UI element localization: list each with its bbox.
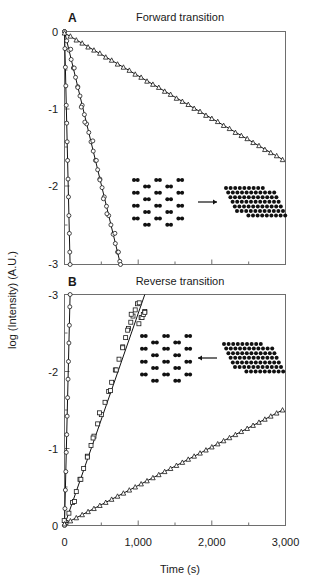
- data-marker-circle: [116, 250, 120, 254]
- cluster-node: [254, 351, 258, 355]
- data-marker-circle: [69, 57, 73, 61]
- data-marker-triangle: [109, 497, 114, 501]
- cluster-node: [265, 365, 269, 369]
- cluster-node: [274, 365, 278, 369]
- lattice-node: [165, 184, 169, 188]
- cluster-node: [240, 351, 244, 355]
- cluster-node: [247, 195, 251, 199]
- data-marker-circle: [98, 178, 102, 182]
- cluster-node: [252, 356, 256, 360]
- panel-b-plot-area: [62, 293, 285, 528]
- cluster-node: [274, 204, 278, 208]
- data-marker-circle: [64, 450, 68, 454]
- data-marker-triangle: [257, 420, 262, 424]
- cluster-node: [281, 370, 285, 374]
- cluster-node: [254, 360, 258, 364]
- cluster-node: [265, 204, 269, 208]
- cluster-node: [240, 360, 244, 364]
- lattice-node: [166, 372, 170, 376]
- lattice-node: [143, 197, 147, 201]
- panel-a-yticklabel-0: 0: [52, 26, 58, 38]
- cluster-node: [277, 370, 281, 374]
- data-marker-triangle: [274, 411, 279, 415]
- data-marker-triangle: [180, 460, 185, 464]
- lattice-node: [158, 204, 162, 208]
- cluster-node: [247, 365, 251, 369]
- cluster-node: [229, 347, 233, 351]
- panel-b-xticklabel-0: 0: [61, 536, 67, 548]
- cluster-node: [224, 347, 228, 351]
- cluster-node: [229, 186, 233, 190]
- data-marker-triangle: [245, 426, 250, 430]
- lattice-node: [147, 184, 151, 188]
- data-marker-circle: [65, 39, 69, 43]
- data-marker-triangle: [268, 414, 273, 418]
- cluster-node: [240, 342, 244, 346]
- data-marker-square: [109, 389, 113, 393]
- lattice-node: [143, 210, 147, 214]
- data-marker-triangle: [233, 432, 238, 436]
- cluster-node: [233, 204, 237, 208]
- cluster-node: [272, 200, 276, 204]
- data-marker-triangle: [121, 491, 126, 495]
- cluster-node: [265, 214, 269, 218]
- lattice-node: [144, 334, 148, 338]
- data-marker-circle: [67, 341, 71, 345]
- data-marker-circle: [63, 507, 67, 511]
- lattice-node: [177, 353, 181, 357]
- panel-a: A Forward transition 0 -1 -2 -3: [48, 11, 287, 270]
- cluster-node: [256, 356, 260, 360]
- data-marker-triangle: [162, 469, 167, 473]
- cluster-node: [272, 191, 276, 195]
- data-marker-circle: [66, 195, 70, 199]
- cluster-node: [279, 204, 283, 208]
- lattice-node: [176, 191, 180, 195]
- cluster-node: [238, 347, 242, 351]
- cluster-node: [270, 347, 274, 351]
- cluster-node: [270, 365, 274, 369]
- lattice-node: [176, 178, 180, 182]
- lattice-node: [147, 197, 151, 201]
- data-marker-triangle: [162, 89, 167, 93]
- data-marker-circle: [87, 130, 91, 134]
- arrow-head: [198, 355, 202, 360]
- data-marker-triangle: [221, 438, 226, 442]
- lattice-node: [180, 216, 184, 220]
- cluster-node: [242, 204, 246, 208]
- data-marker-triangle: [151, 475, 156, 479]
- cluster-node: [265, 195, 269, 199]
- figure-svg: log (Intensity) (A.U.) A Forward transit…: [0, 0, 321, 585]
- panel-a-x-axis: [65, 260, 286, 265]
- lattice-node: [144, 372, 148, 376]
- data-marker-square: [82, 467, 86, 471]
- lattice-node: [176, 204, 180, 208]
- lattice-node: [136, 178, 140, 182]
- lattice-node: [154, 191, 158, 195]
- data-marker-circle: [78, 94, 82, 98]
- data-marker-circle: [113, 242, 117, 246]
- cluster-node: [238, 195, 242, 199]
- cluster-node: [231, 200, 235, 204]
- panel-b-frame: [65, 295, 286, 526]
- cluster-node: [247, 186, 251, 190]
- lattice-node: [180, 178, 184, 182]
- fit-line-b-2: [65, 410, 283, 524]
- data-marker-circle: [67, 214, 71, 218]
- dense-cluster: [224, 186, 287, 218]
- data-marker-triangle: [251, 140, 256, 144]
- panel-b-x-axis: 0 1,000 2,000 3,000: [61, 521, 299, 549]
- cluster-node: [233, 195, 237, 199]
- figure-container: log (Intensity) (A.U.) A Forward transit…: [0, 0, 321, 585]
- data-marker-triangle: [239, 133, 244, 137]
- cluster-node: [256, 214, 260, 218]
- data-marker-circle: [66, 177, 70, 181]
- data-marker-circle: [76, 86, 80, 90]
- cluster-node: [270, 204, 274, 208]
- cluster-node: [238, 356, 242, 360]
- data-marker-triangle: [192, 454, 197, 458]
- cluster-node: [272, 360, 276, 364]
- lattice-node: [132, 191, 136, 195]
- panel-a-yticklabel-3: -3: [48, 258, 58, 270]
- cluster-node: [256, 347, 260, 351]
- panel-b-xticklabel-3: 3,000: [272, 536, 300, 548]
